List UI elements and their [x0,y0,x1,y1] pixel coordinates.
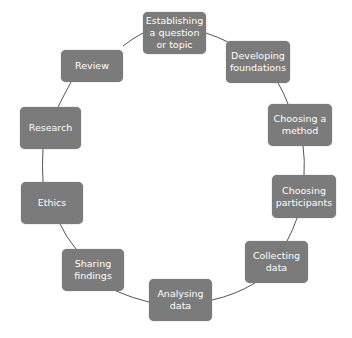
connector-method-to-participants [303,146,304,175]
node-analysing-data: Analysing data [149,279,212,321]
connector-developing-to-method [278,83,288,104]
node-label: Choosing participants [275,185,333,209]
node-research: Research [20,107,81,149]
node-review: Review [61,50,123,82]
node-label: Collecting data [248,250,305,274]
node-ethics: Ethics [21,182,83,224]
connector-ethics-to-research [43,149,44,182]
connector-establishing-to-developing [206,33,228,42]
connector-participants-to-collecting [287,218,297,241]
node-label: Sharing findings [65,258,121,282]
connector-sharing-to-ethics [60,224,76,249]
node-label: Establishing a question or topic [146,15,203,51]
connector-research-to-review [58,82,71,107]
node-label: Developing foundations [229,50,287,74]
node-label: Research [29,122,73,134]
node-label: Choosing a method [271,113,329,137]
node-choosing-participants: Choosing participants [272,175,336,218]
node-collecting-data: Collecting data [245,241,308,283]
connector-review-to-establishing [123,33,143,46]
node-establishing-question: Establishing a question or topic [143,12,206,54]
node-label: Review [75,60,109,72]
node-label: Analysing data [152,288,209,312]
node-label: Ethics [38,197,67,209]
connector-collecting-to-analysing [212,283,255,300]
connector-analysing-to-sharing [116,291,149,302]
node-developing-foundations: Developing foundations [226,41,290,83]
node-choosing-method: Choosing a method [268,104,332,146]
node-sharing-findings: Sharing findings [62,249,124,291]
